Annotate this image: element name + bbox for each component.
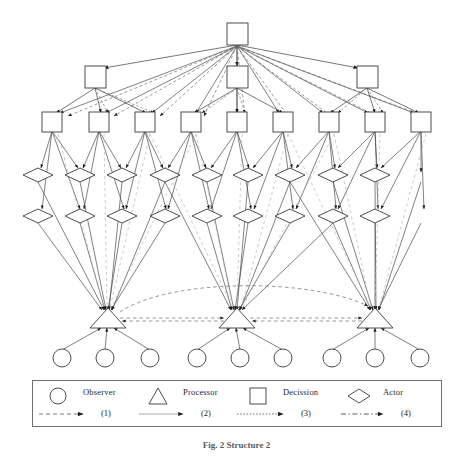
legend-label-processor: Processor	[183, 387, 218, 397]
triangle-icon	[145, 386, 175, 406]
decission-root-node[interactable]	[227, 23, 248, 45]
legend-label-actor: Actor	[383, 387, 403, 397]
legend-item-actor: Actor (4)	[339, 381, 441, 426]
legend-number-1: (1)	[101, 408, 111, 418]
edge-group-mid-to-leaves	[56, 88, 419, 113]
observer-nodes[interactable]	[53, 349, 429, 367]
legend-number-4: (4)	[401, 408, 411, 418]
legend-line-3	[235, 408, 295, 420]
diamond-icon	[345, 386, 375, 406]
square-icon	[245, 386, 275, 406]
legend-line-2	[135, 408, 195, 420]
edge-group-actors-to-processors	[38, 182, 421, 310]
edge-group-leaves-to-actors	[41, 131, 424, 209]
nodes-layer	[23, 23, 431, 367]
decission-leaf-nodes[interactable]	[42, 112, 431, 132]
legend-label-observer: Observer	[83, 387, 116, 397]
legend-number-2: (2)	[201, 408, 211, 418]
legend-item-processor: Processor (2)	[139, 381, 241, 426]
legend-line-4	[335, 408, 395, 420]
actor-nodes-row-1[interactable]	[23, 168, 390, 182]
edges-layer	[38, 45, 426, 350]
decission-mid-nodes[interactable]	[85, 66, 378, 88]
actor-nodes-row-2[interactable]	[23, 209, 390, 223]
legend-number-3: (3)	[301, 408, 311, 418]
legend-label-decission: Decission	[283, 387, 318, 397]
figure-root: Observer (1) Processor (2) Decission	[0, 0, 473, 458]
circle-icon	[45, 386, 75, 406]
legend-item-decission: Decission (3)	[239, 381, 341, 426]
figure-caption: Fig. 2 Structure 2	[0, 440, 473, 458]
legend-item-observer: Observer (1)	[39, 381, 141, 426]
legend-line-1	[35, 408, 95, 420]
edge-group-observers-to-processors	[62, 328, 420, 350]
legend-box: Observer (1) Processor (2) Decission	[32, 380, 442, 427]
